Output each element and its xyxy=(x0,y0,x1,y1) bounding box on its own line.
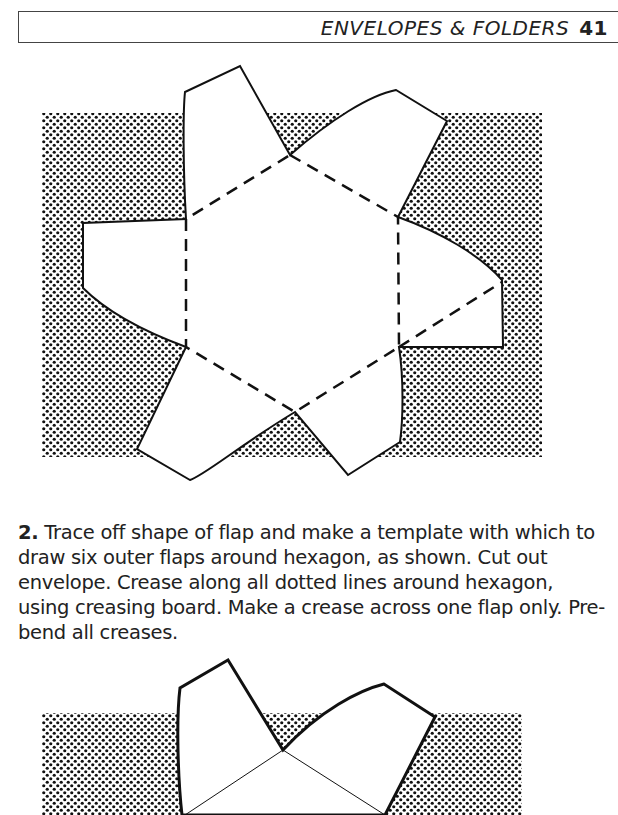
envelope-outline-2 xyxy=(178,660,435,815)
step-number: 2. xyxy=(18,521,38,544)
figure-hexagon-template xyxy=(42,66,542,480)
figure-partial-envelope xyxy=(42,660,522,815)
instructions-paragraph: 2. Trace off shape of flap and make a te… xyxy=(18,520,608,645)
step-text: Trace off shape of flap and make a templ… xyxy=(18,521,605,644)
